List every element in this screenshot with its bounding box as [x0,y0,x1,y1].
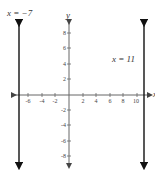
x-tick-label: 6 [109,98,112,104]
coordinate-plane: -6 -4 -2 2 4 6 8 10 x 8 6 4 2 -2 [0,0,155,170]
x-axis-label: x [152,90,155,99]
y-tick-label: -6 [61,138,66,144]
y-axis-label: y [65,10,70,20]
x-tick-label: 8 [122,98,125,104]
line-x-neg7: x = −7 [6,8,33,166]
x-tick-label: -6 [26,98,31,104]
y-tick-label: 8 [63,30,66,36]
x-tick-label: -4 [40,98,45,104]
x-tick-label: -2 [53,98,58,104]
x-tick-label: 4 [95,98,98,104]
y-tick-label: -8 [61,153,66,159]
y-tick-label: -4 [61,122,66,128]
x-axis: -6 -4 -2 2 4 6 8 10 x [14,90,155,104]
line-label: x = 11 [111,54,135,64]
x-tick-label: 10 [133,98,139,104]
y-tick-label: 2 [63,76,66,82]
y-tick-label: 6 [63,45,66,51]
x-tick-label: 2 [82,98,85,104]
y-tick-label: 4 [63,61,66,67]
y-tick-label: -2 [61,107,66,113]
y-axis: 8 6 4 2 -2 -4 -6 -8 y [61,10,71,166]
line-label: x = −7 [6,8,33,18]
